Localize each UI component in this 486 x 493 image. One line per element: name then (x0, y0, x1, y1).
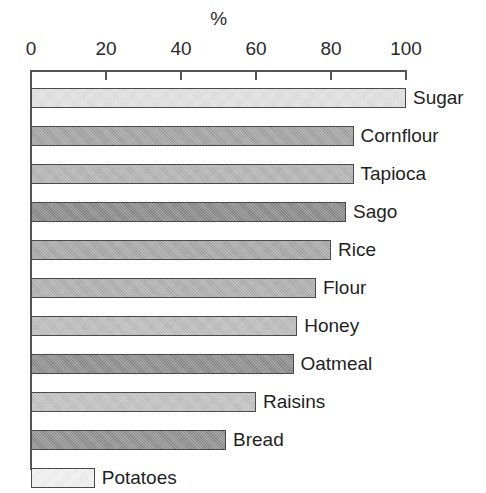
bar-row: Sugar (31, 88, 486, 108)
bar-row: Raisins (31, 392, 486, 412)
x-tick-mark-80 (330, 70, 332, 80)
x-tick-mark-0 (30, 70, 32, 82)
bar-cornflour (31, 126, 354, 146)
bar-label-bread: Bread (226, 429, 284, 451)
bar-label-sago: Sago (346, 201, 397, 223)
bar-chart: % 020406080100 SugarCornflourTapiocaSago… (0, 0, 486, 493)
bar-label-sugar: Sugar (406, 87, 464, 109)
bar-tapioca (31, 164, 354, 184)
x-tick-mark-60 (255, 70, 257, 80)
bar-rice (31, 240, 331, 260)
bar-flour (31, 278, 316, 298)
bar-label-potatoes: Potatoes (95, 467, 177, 489)
bar-row: Sago (31, 202, 486, 222)
bar-sago (31, 202, 346, 222)
bar-label-rice: Rice (331, 239, 376, 261)
bar-label-cornflour: Cornflour (354, 125, 439, 147)
bar-sugar (31, 88, 406, 108)
bar-row: Bread (31, 430, 486, 450)
bar-row: Potatoes (31, 468, 486, 488)
bar-label-raisins: Raisins (256, 391, 325, 413)
bar-bread (31, 430, 226, 450)
bar-row: Rice (31, 240, 486, 260)
x-tick-mark-100 (405, 70, 407, 80)
bar-label-flour: Flour (316, 277, 366, 299)
bar-label-honey: Honey (297, 315, 359, 337)
bar-row: Honey (31, 316, 486, 336)
bars-area: SugarCornflourTapiocaSagoRiceFlourHoneyO… (0, 0, 486, 493)
bar-label-tapioca: Tapioca (354, 163, 427, 185)
bar-row: Flour (31, 278, 486, 298)
bar-row: Tapioca (31, 164, 486, 184)
bar-oatmeal (31, 354, 294, 374)
bar-row: Cornflour (31, 126, 486, 146)
bar-raisins (31, 392, 256, 412)
x-tick-mark-40 (180, 70, 182, 80)
bar-row: Oatmeal (31, 354, 486, 374)
x-tick-mark-20 (105, 70, 107, 80)
bar-label-oatmeal: Oatmeal (294, 353, 373, 375)
bar-potatoes (31, 468, 95, 488)
bar-honey (31, 316, 297, 336)
